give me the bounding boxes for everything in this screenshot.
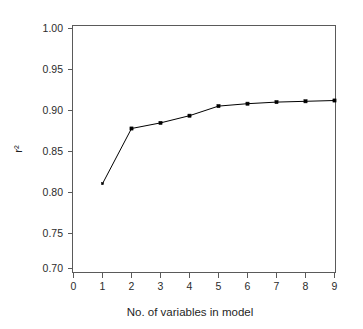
scatter-line-plot: 1.00 0.95 0.90 0.85 0.80 0.75 0.70 0 1 2… — [0, 0, 363, 329]
data-point — [159, 121, 162, 124]
x-tick-label-9: 9 — [332, 280, 338, 292]
x-tick-marks — [74, 273, 335, 278]
y-tick-label-0-70: 0.70 — [43, 262, 64, 274]
y-tick-label-0-75: 0.75 — [43, 227, 64, 239]
data-series-line — [103, 101, 335, 184]
data-point — [130, 127, 133, 130]
x-tick-label-8: 8 — [303, 280, 309, 292]
data-point — [304, 100, 307, 103]
y-tick-label-0-85: 0.85 — [43, 145, 64, 157]
plot-frame — [73, 26, 336, 273]
chart-figure: 1.00 0.95 0.90 0.85 0.80 0.75 0.70 0 1 2… — [0, 0, 363, 329]
x-tick-label-4: 4 — [187, 280, 193, 292]
y-tick-label-1-00: 1.00 — [43, 22, 64, 34]
y-tick-label-0-90: 0.90 — [43, 104, 64, 116]
y-tick-marks — [68, 29, 73, 269]
x-tick-label-3: 3 — [158, 280, 164, 292]
y-tick-label-0-95: 0.95 — [43, 63, 64, 75]
data-point — [275, 101, 278, 104]
y-axis-title: r² — [12, 145, 24, 153]
x-axis-title: No. of variables in model — [127, 306, 254, 318]
x-tick-label-6: 6 — [245, 280, 251, 292]
data-series-markers — [102, 99, 337, 185]
y-tick-label-0-80: 0.80 — [43, 186, 64, 198]
x-tick-label-1: 1 — [100, 280, 106, 292]
x-tick-label-5: 5 — [216, 280, 222, 292]
x-tick-label-2: 2 — [129, 280, 135, 292]
data-point — [188, 114, 191, 117]
x-tick-label-7: 7 — [274, 280, 280, 292]
data-point — [217, 105, 220, 108]
x-tick-label-0: 0 — [71, 280, 77, 292]
data-point — [102, 183, 104, 185]
data-point — [333, 99, 336, 102]
data-point — [246, 102, 249, 105]
